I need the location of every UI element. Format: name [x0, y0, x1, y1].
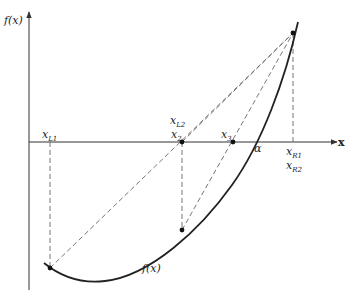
point-R1 — [291, 31, 296, 36]
label-xL2: xL2 — [170, 114, 186, 129]
point-x2-curve — [180, 228, 185, 233]
curve-label: f(x) — [141, 262, 161, 275]
label-alpha: α — [254, 142, 262, 155]
label-x2: x2 — [171, 128, 182, 143]
regula-falsi-diagram: f(x) x xL1 xL2 x2 x3 α xR1 xR2 f(x) — [0, 0, 346, 296]
secant-x2-R1 — [182, 33, 293, 230]
y-axis-label: f(x) — [3, 14, 23, 27]
label-xR2: xR2 — [286, 159, 302, 174]
label-x3: x3 — [221, 128, 232, 143]
point-L1 — [48, 266, 53, 271]
label-xR1: xR1 — [286, 145, 302, 160]
label-xL1: xL1 — [42, 128, 57, 143]
x-axis-label: x — [338, 136, 345, 149]
secant-half-R1 — [182, 33, 293, 142]
